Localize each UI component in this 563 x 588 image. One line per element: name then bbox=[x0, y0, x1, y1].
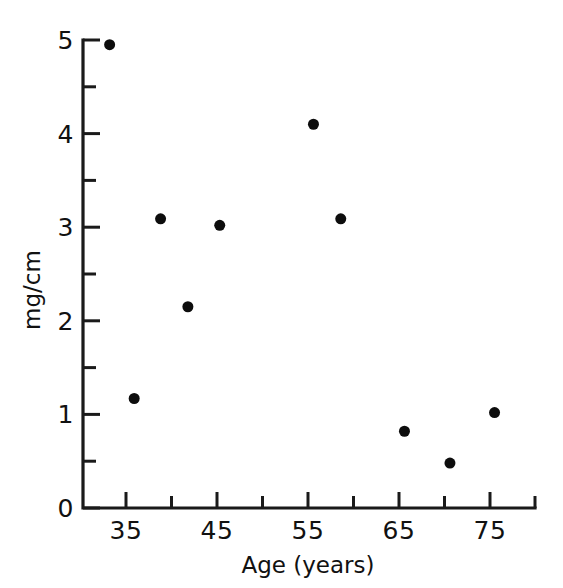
data-point bbox=[182, 301, 193, 312]
data-point bbox=[155, 213, 166, 224]
y-tick-label-5: 5 bbox=[58, 26, 74, 55]
data-point bbox=[129, 393, 140, 404]
x-tick-label-45: 45 bbox=[201, 516, 234, 545]
data-point bbox=[104, 39, 115, 50]
plot-canvas: 0 1 2 3 4 5 35 45 55 65 75 bbox=[0, 0, 563, 588]
y-tick-label-1: 1 bbox=[58, 400, 74, 429]
data-point bbox=[308, 119, 319, 130]
y-axis-title: mg/cm bbox=[19, 250, 45, 330]
data-point bbox=[444, 458, 455, 469]
data-point bbox=[335, 213, 346, 224]
y-tick-label-2: 2 bbox=[58, 307, 74, 336]
data-point bbox=[399, 426, 410, 437]
y-tick-label-4: 4 bbox=[58, 120, 74, 149]
data-point bbox=[489, 407, 500, 418]
y-tick-label-0: 0 bbox=[58, 494, 74, 523]
x-tick-label-75: 75 bbox=[474, 516, 507, 545]
y-tick-label-3: 3 bbox=[58, 213, 74, 242]
scatter-plot-figure: 0 1 2 3 4 5 35 45 55 65 75 bbox=[0, 0, 563, 588]
x-tick-label-55: 55 bbox=[292, 516, 325, 545]
x-axis-title: Age (years) bbox=[241, 552, 374, 578]
x-tick-label-35: 35 bbox=[110, 516, 143, 545]
x-tick-label-65: 65 bbox=[383, 516, 416, 545]
data-point bbox=[214, 220, 225, 231]
